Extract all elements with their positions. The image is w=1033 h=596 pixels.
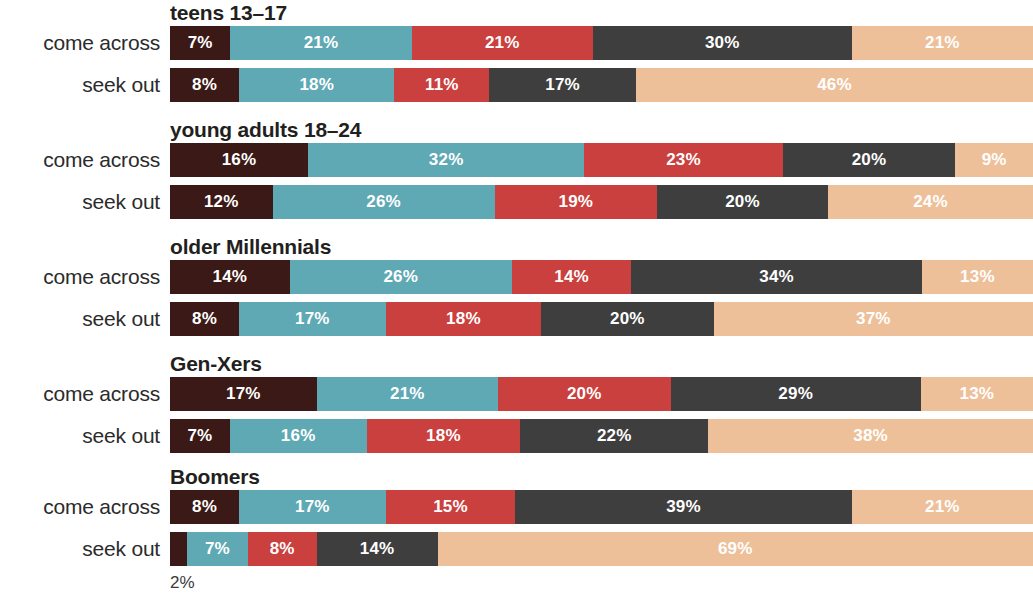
chart-row: seek out2%7%8%14%69% <box>0 532 1033 566</box>
group-title: older Millennials <box>170 236 331 257</box>
segment-value-label: 16% <box>281 426 316 446</box>
group-title: Gen-Xers <box>170 353 262 374</box>
segment-value-label: 32% <box>429 150 464 170</box>
segment-value-label: 21% <box>485 33 520 53</box>
segment-value-label: 24% <box>913 192 948 212</box>
group-title: Boomers <box>170 466 260 487</box>
bar-segment-dark-gray: 14% <box>317 532 438 566</box>
bar-segment-tan: 13% <box>921 377 1033 411</box>
chart-group: Gen-Xerscome across17%21%20%29%13%seek o… <box>0 351 1033 468</box>
segment-value-label: 29% <box>778 384 813 404</box>
chart-group: teens 13–17come across7%21%21%30%21%seek… <box>0 0 1033 117</box>
segment-value-label: 8% <box>192 75 217 95</box>
outside-value-label: 2% <box>170 574 195 591</box>
chart-row: seek out8%17%18%20%37% <box>0 302 1033 336</box>
segment-value-label: 26% <box>366 192 401 212</box>
bar-segment-dark-gray: 20% <box>541 302 714 336</box>
segment-value-label: 22% <box>597 426 632 446</box>
chart-row: come across14%26%14%34%13% <box>0 260 1033 294</box>
segment-value-label: 34% <box>759 267 794 287</box>
segment-value-label: 14% <box>212 267 247 287</box>
row-label: come across <box>0 143 160 177</box>
segment-value-label: 26% <box>383 267 418 287</box>
segment-value-label: 8% <box>192 309 217 329</box>
bar-segment-red: 15% <box>386 490 515 524</box>
bar-segment-teal: 26% <box>290 260 512 294</box>
segment-value-label: 12% <box>204 192 239 212</box>
segment-value-label: 18% <box>299 75 334 95</box>
bar-segment-teal: 7% <box>187 532 247 566</box>
bar-segment-tan: 13% <box>922 260 1033 294</box>
segment-value-label: 8% <box>270 539 295 559</box>
row-label: come across <box>0 377 160 411</box>
chart-row: seek out8%18%11%17%46% <box>0 68 1033 102</box>
bar-segment-dark-gray: 17% <box>489 68 636 102</box>
group-title: teens 13–17 <box>170 2 287 23</box>
segment-value-label: 30% <box>705 33 740 53</box>
segment-value-label: 8% <box>192 497 217 517</box>
bar-segment-tan: 37% <box>714 302 1033 336</box>
bar-segment-red: 21% <box>412 26 593 60</box>
bar-segment-teal: 17% <box>239 302 386 336</box>
bar-segment-maroon: 7% <box>170 26 230 60</box>
bar-segment-dark-gray: 20% <box>783 143 956 177</box>
bar-segment-maroon: 16% <box>170 143 308 177</box>
segment-value-label: 18% <box>446 309 481 329</box>
bar-segment-maroon: 8% <box>170 302 239 336</box>
stacked-bar: 14%26%14%34%13% <box>170 260 1033 294</box>
bar-segment-dark-gray: 30% <box>593 26 852 60</box>
chart-row: come across8%17%15%39%21% <box>0 490 1033 524</box>
row-label: seek out <box>0 185 160 219</box>
stacked-bar: 2%7%8%14%69% <box>170 532 1033 566</box>
segment-value-label: 69% <box>718 539 753 559</box>
segment-value-label: 20% <box>610 309 645 329</box>
chart-group: older Millennialscome across14%26%14%34%… <box>0 234 1033 351</box>
stacked-bar: 7%16%18%22%38% <box>170 419 1033 453</box>
bar-segment-maroon: 2% <box>170 532 187 566</box>
row-label: come across <box>0 260 160 294</box>
bar-segment-tan: 24% <box>828 185 1033 219</box>
chart-row: come across7%21%21%30%21% <box>0 26 1033 60</box>
bar-segment-teal: 17% <box>239 490 386 524</box>
segment-value-label: 7% <box>187 426 212 446</box>
bar-segment-red: 8% <box>248 532 317 566</box>
bar-segment-dark-gray: 39% <box>515 490 852 524</box>
stacked-bar: 7%21%21%30%21% <box>170 26 1033 60</box>
bar-segment-teal: 16% <box>230 419 367 453</box>
bar-segment-maroon: 7% <box>170 419 230 453</box>
bar-segment-maroon: 14% <box>170 260 290 294</box>
chart-row: come across17%21%20%29%13% <box>0 377 1033 411</box>
bar-segment-tan: 38% <box>708 419 1033 453</box>
bar-segment-red: 11% <box>394 68 489 102</box>
bar-segment-tan: 21% <box>852 26 1033 60</box>
segment-value-label: 37% <box>856 309 891 329</box>
row-label: seek out <box>0 68 160 102</box>
segment-value-label: 13% <box>960 384 995 404</box>
chart-group: young adults 18–24come across16%32%23%20… <box>0 117 1033 234</box>
segment-value-label: 7% <box>205 539 230 559</box>
segment-value-label: 17% <box>295 309 330 329</box>
bar-segment-teal: 18% <box>239 68 394 102</box>
segment-value-label: 17% <box>226 384 261 404</box>
segment-value-label: 21% <box>304 33 339 53</box>
segment-value-label: 23% <box>666 150 701 170</box>
segment-value-label: 14% <box>360 539 395 559</box>
bar-segment-tan: 9% <box>955 143 1033 177</box>
stacked-bar: 8%17%15%39%21% <box>170 490 1033 524</box>
stacked-bar: 12%26%19%20%24% <box>170 185 1033 219</box>
bar-segment-red: 20% <box>498 377 671 411</box>
bar-segment-red: 14% <box>512 260 632 294</box>
chart-row: seek out7%16%18%22%38% <box>0 419 1033 453</box>
row-label: seek out <box>0 302 160 336</box>
segment-value-label: 21% <box>925 33 960 53</box>
segment-value-label: 17% <box>545 75 580 95</box>
segment-value-label: 20% <box>725 192 760 212</box>
bar-segment-teal: 21% <box>317 377 498 411</box>
bar-segment-dark-gray: 20% <box>657 185 828 219</box>
row-label: seek out <box>0 419 160 453</box>
bar-segment-dark-gray: 22% <box>520 419 708 453</box>
bar-segment-dark-gray: 29% <box>671 377 921 411</box>
segment-value-label: 17% <box>295 497 330 517</box>
bar-segment-red: 18% <box>367 419 521 453</box>
segment-value-label: 14% <box>554 267 589 287</box>
